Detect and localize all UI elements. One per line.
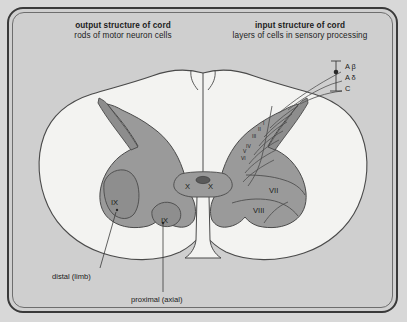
label-fiber-a-beta: A β	[345, 62, 356, 71]
header-right-title: input structure of cord	[205, 21, 395, 31]
leader-distal-dot	[116, 209, 118, 211]
label-lamina-ix-proximal: IX	[161, 216, 168, 225]
label-lamina-vii: VII	[269, 186, 278, 195]
label-fiber-c: C	[345, 84, 350, 93]
lamina-x-region	[174, 172, 232, 197]
label-lamina-v: V	[243, 148, 246, 154]
header-right: input structure of cord layers of cells …	[205, 21, 395, 42]
label-fiber-a-delta: A δ	[345, 73, 356, 82]
label-lamina-i: I	[263, 120, 264, 126]
fiber-a-delta-terminal	[334, 70, 339, 83]
label-lamina-ix-distal: IX	[111, 198, 118, 207]
header-right-subtitle: layers of cells in sensory processing	[205, 31, 395, 41]
label-lamina-iii: III	[252, 133, 256, 139]
label-lamina-ii: II	[258, 126, 261, 132]
label-proximal-axial: proximal (axial)	[131, 295, 182, 304]
label-lamina-x-left: X	[185, 182, 190, 191]
label-lamina-x-right: X	[208, 182, 213, 191]
label-lamina-viii: VIII	[253, 206, 264, 215]
header-left: output structure of cord rods of motor n…	[28, 21, 218, 42]
header-left-title: output structure of cord	[28, 21, 218, 31]
header-left-subtitle: rods of motor neuron cells	[28, 31, 218, 41]
spinal-cord-figure: output structure of cord rods of motor n…	[0, 0, 407, 322]
label-lamina-iv: IV	[246, 143, 251, 149]
label-distal-limb: distal (limb)	[52, 272, 91, 281]
label-lamina-vi: VI	[241, 155, 246, 161]
